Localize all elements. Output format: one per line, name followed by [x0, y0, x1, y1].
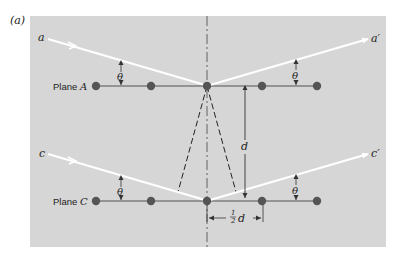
reflected-ray-a-prime	[210, 39, 368, 85]
bragg-diffraction-diagram: θ θ θ θ d 1 2 d a a′ c c′ Plane A Plane …	[0, 0, 395, 262]
ray-label-a: a	[38, 31, 45, 44]
path-difference-line-right	[207, 86, 236, 192]
ray-label-c: c	[39, 147, 45, 160]
theta-label: θ	[292, 70, 298, 81]
reflected-ray-c-prime	[210, 154, 368, 200]
plane-a-label: Plane A	[53, 81, 87, 92]
half-d-numerator: 1	[231, 209, 235, 217]
incident-ray-a	[48, 39, 205, 85]
half-d-variable: d	[238, 212, 245, 225]
ray-label-a-prime: a′	[371, 32, 381, 45]
path-difference-line-left	[178, 86, 207, 192]
theta-label: θ	[117, 186, 123, 197]
ray-label-c-prime: c′	[371, 147, 380, 160]
half-d-denominator: 2	[230, 217, 236, 225]
incident-ray-c	[48, 154, 205, 200]
theta-label: θ	[292, 185, 298, 196]
theta-label: θ	[117, 71, 123, 82]
spacing-d-label: d	[241, 140, 248, 153]
plane-c-label: Plane C	[53, 196, 88, 207]
